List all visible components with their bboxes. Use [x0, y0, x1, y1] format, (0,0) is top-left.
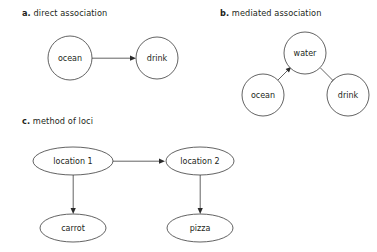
node-label: location 2	[180, 157, 219, 166]
node-label: location 1	[53, 157, 92, 166]
edge-b-ocean-to-water	[278, 67, 292, 81]
edge-line	[321, 68, 335, 82]
panel-c-graph: location 1 location 2 carrot pizza	[33, 147, 234, 242]
node-label: carrot	[61, 224, 85, 233]
node-c-location-2: location 2	[166, 147, 234, 175]
node-a-ocean: ocean	[48, 36, 92, 80]
node-label: pizza	[190, 224, 211, 233]
node-b-ocean: ocean	[242, 74, 284, 116]
node-c-pizza: pizza	[167, 214, 233, 242]
node-b-water: water	[284, 32, 326, 74]
arrowhead-icon	[71, 208, 76, 214]
edge-a-ocean-to-drink	[92, 56, 136, 61]
panel-b-graph: water ocean drink	[242, 32, 369, 116]
arrowhead-icon	[159, 159, 165, 164]
node-label: drink	[338, 91, 359, 100]
node-label: drink	[147, 54, 168, 63]
diagram-canvas: ocean drink water	[0, 0, 377, 252]
edge-c-loc1-to-carrot	[71, 175, 76, 214]
edge-line	[278, 70, 289, 81]
node-c-carrot: carrot	[40, 214, 106, 242]
node-label: ocean	[58, 54, 82, 63]
node-c-location-1: location 1	[33, 147, 113, 175]
node-b-drink: drink	[327, 74, 369, 116]
node-label: water	[294, 49, 318, 58]
edge-c-loc2-to-pizza	[198, 175, 203, 214]
edge-c-loc1-to-loc2	[113, 159, 165, 164]
node-label: ocean	[251, 91, 275, 100]
association-diagram-figure: a. direct association b. mediated associ…	[0, 0, 377, 252]
arrowhead-icon	[130, 56, 136, 61]
arrowhead-icon	[198, 208, 203, 214]
panel-a-graph: ocean drink	[48, 36, 178, 80]
node-a-drink: drink	[136, 37, 178, 79]
